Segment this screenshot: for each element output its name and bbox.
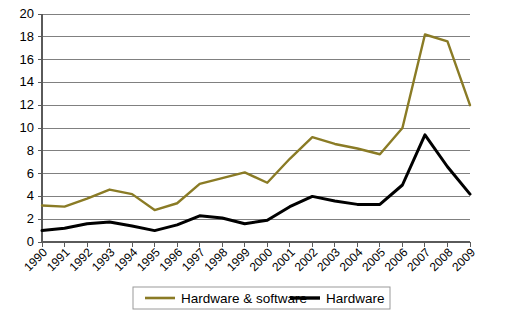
x-tick-label: 1998	[202, 245, 231, 274]
y-tick-label: 16	[20, 52, 34, 67]
x-axis-ticks: 1990199119921993199419951996199719981999…	[21, 242, 478, 274]
x-tick-label: 2007	[404, 245, 433, 274]
x-tick-label: 1997	[179, 245, 208, 274]
x-tick-label: 2006	[382, 245, 411, 274]
chart-legend: Hardware & softwareHardware	[133, 287, 390, 309]
x-tick-label: 2000	[247, 245, 276, 274]
legend-label-2: Hardware	[326, 291, 385, 306]
x-tick-label: 2003	[314, 245, 343, 274]
x-tick-label: 1994	[111, 245, 140, 274]
x-tick-label: 2008	[427, 245, 456, 274]
x-tick-label: 2001	[269, 245, 298, 274]
y-tick-label: 0	[27, 234, 34, 249]
y-tick-label: 12	[20, 97, 34, 112]
x-tick-label: 2005	[359, 245, 388, 274]
x-tick-label: 1992	[66, 245, 95, 274]
y-tick-label: 10	[20, 120, 34, 135]
y-tick-label: 18	[20, 29, 34, 44]
series-line-1	[42, 35, 470, 211]
x-tick-label: 1993	[89, 245, 118, 274]
data-series	[42, 35, 470, 231]
x-tick-label: 1999	[224, 245, 253, 274]
y-tick-label: 14	[20, 74, 34, 89]
x-tick-label: 1996	[156, 245, 185, 274]
y-tick-label: 6	[27, 166, 34, 181]
y-tick-label: 2	[27, 211, 34, 226]
y-axis-ticks: 02468101214161820	[20, 6, 42, 249]
line-chart: 02468101214161820 1990199119921993199419…	[0, 0, 512, 313]
x-tick-label: 2004	[337, 245, 366, 274]
x-tick-label: 1995	[134, 245, 163, 274]
x-tick-label: 1990	[21, 245, 50, 274]
legend-label-1: Hardware & software	[181, 291, 307, 306]
x-tick-label: 2002	[292, 245, 321, 274]
x-tick-label: 1991	[44, 245, 73, 274]
y-tick-label: 20	[20, 6, 34, 21]
y-tick-label: 4	[27, 188, 34, 203]
y-tick-label: 8	[27, 143, 34, 158]
chart-canvas: 02468101214161820 1990199119921993199419…	[0, 0, 512, 313]
series-line-2	[42, 135, 470, 231]
x-tick-label: 2009	[449, 245, 478, 274]
